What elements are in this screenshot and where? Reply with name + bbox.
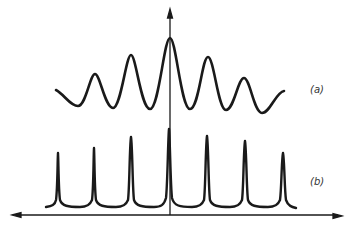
horizontal-axis [12,213,342,219]
label-a: (a) [310,84,324,95]
diagram-figure [0,0,353,232]
label-a-text: (a) [310,84,324,95]
curve-b [46,129,296,208]
label-b: (b) [310,176,324,187]
label-b-text: (b) [310,176,324,187]
